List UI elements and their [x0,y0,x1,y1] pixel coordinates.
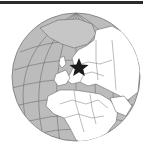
locator-globe-map [0,0,150,149]
